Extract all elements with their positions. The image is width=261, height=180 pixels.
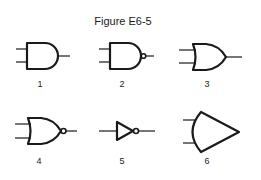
gate-label-2: 2	[112, 79, 132, 89]
not-gate-icon	[99, 122, 155, 140]
gate-label-4: 4	[29, 156, 49, 166]
gate-label-3: 3	[197, 79, 217, 89]
large-or-gate-icon	[183, 112, 239, 152]
nor-gate-icon	[15, 118, 77, 144]
and-gate-icon	[16, 43, 70, 69]
gate-label-1: 1	[30, 79, 50, 89]
gates-drawing	[0, 0, 261, 180]
gate-label-5: 5	[112, 156, 132, 166]
figure-canvas: Figure E6-5	[0, 0, 261, 180]
gate-label-6: 6	[197, 156, 217, 166]
nand-gate-icon	[99, 43, 154, 69]
or-gate-icon	[179, 44, 242, 70]
